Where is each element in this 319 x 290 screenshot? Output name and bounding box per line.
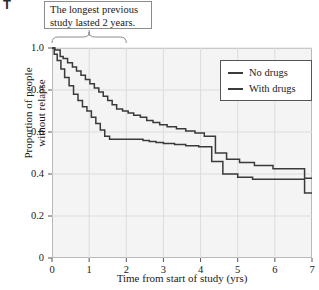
legend-label-with-drugs: With drugs — [249, 84, 296, 95]
legend-line-swatch-icon — [228, 72, 243, 74]
y-axis-title-line-2: without relapse — [35, 18, 48, 208]
legend-item-with-drugs: With drugs — [221, 81, 311, 97]
annotation-callout-box: The longest previous study lasted 2 year… — [44, 1, 152, 29]
y-axis-title: Proportion of people without relapse — [22, 18, 48, 208]
y-tick-label: 0 — [16, 253, 44, 264]
x-axis-title: Time from start of study (yrs) — [52, 272, 312, 284]
annotation-text-line-2: study lasted 2 years. — [50, 17, 147, 30]
figure-kaplan-meier-relapse: T 00.20.40.60.81.0 01234567 Proportion o… — [0, 0, 319, 290]
legend-line-swatch-icon — [228, 88, 243, 90]
chart-legend: No drugs With drugs — [220, 60, 312, 101]
y-axis-title-line-1: Proportion of people — [22, 18, 35, 208]
annotation-text-line-1: The longest previous — [50, 4, 147, 17]
y-tick-label: 0.2 — [16, 211, 44, 222]
legend-item-no-drugs: No drugs — [221, 65, 311, 81]
legend-label-no-drugs: No drugs — [249, 68, 288, 79]
